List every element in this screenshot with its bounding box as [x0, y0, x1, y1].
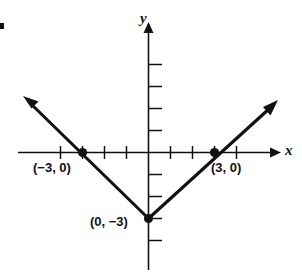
y-axis-label: y — [140, 10, 147, 27]
point-label-vertex: (0, −3) — [90, 214, 128, 229]
point-label-left-root: (−3, 0) — [33, 160, 71, 175]
curve-left-arrowhead — [23, 96, 39, 109]
x-axis — [18, 146, 281, 159]
point-right-root — [210, 148, 219, 157]
coordinate-plane-svg — [0, 0, 302, 278]
graph-figure: (−3, 0) (3, 0) (0, −3) x y — [0, 0, 302, 278]
x-axis-arrowhead — [270, 148, 281, 158]
point-left-root — [78, 148, 87, 157]
x-axis-label: x — [285, 142, 293, 159]
y-axis — [144, 22, 163, 270]
curve-right-arm — [149, 108, 271, 219]
point-label-right-root: (3, 0) — [211, 160, 241, 175]
point-vertex — [144, 214, 153, 223]
